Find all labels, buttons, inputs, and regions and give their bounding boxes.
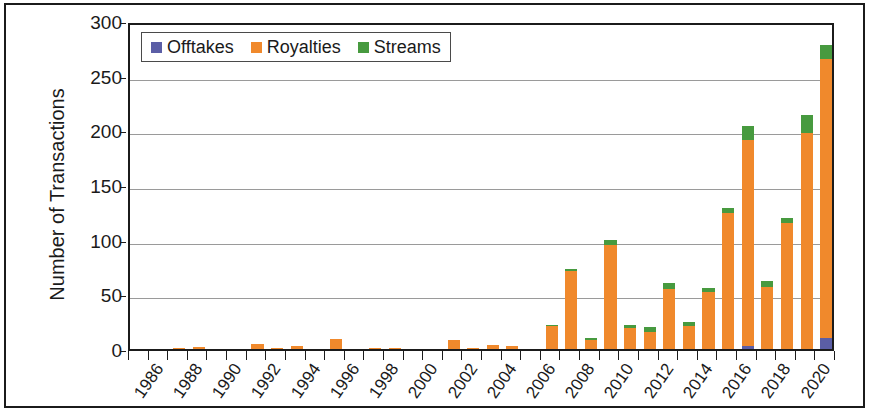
bar-column[interactable]: [702, 288, 714, 349]
bar-segment-royalties: [663, 289, 675, 349]
bar-segment-royalties: [193, 347, 205, 349]
x-tick-mark: [167, 351, 168, 360]
bar-segment-royalties: [702, 292, 714, 349]
x-tick-label: 1988: [169, 360, 207, 402]
bar-column[interactable]: [487, 345, 499, 349]
x-tick-label: 1992: [248, 360, 286, 402]
bar-column[interactable]: [801, 115, 813, 349]
bar-segment-royalties: [506, 346, 518, 349]
x-tick-mark: [559, 351, 560, 360]
bar-segment-royalties: [585, 340, 597, 349]
bar-column[interactable]: [389, 348, 401, 349]
y-tick-label: 150: [62, 176, 122, 198]
bar-segment-royalties: [369, 348, 381, 349]
bar-segment-streams: [801, 115, 813, 132]
x-tick-label: 1986: [130, 360, 168, 402]
plot-inner: [130, 25, 832, 349]
x-tick-label: 1998: [365, 360, 403, 402]
legend-label: Streams: [374, 37, 441, 58]
bar-column[interactable]: [193, 347, 205, 349]
bar-column[interactable]: [467, 348, 479, 349]
bar-column[interactable]: [742, 126, 754, 349]
x-tick-label: 1990: [209, 360, 247, 402]
bar-column[interactable]: [761, 281, 773, 349]
plot-area: [128, 23, 834, 351]
x-tick-mark: [599, 351, 600, 360]
bar-segment-streams: [742, 126, 754, 140]
bar-segment-streams: [820, 45, 832, 59]
bar-column[interactable]: [271, 348, 283, 349]
x-axis-tick-labels: 1986198819901992199419961998200020022004…: [128, 360, 834, 415]
x-tick-mark: [697, 351, 698, 360]
legend-item-streams[interactable]: Streams: [358, 37, 441, 58]
bar-segment-royalties: [565, 271, 577, 349]
bar-column[interactable]: [251, 344, 263, 349]
bar-column[interactable]: [663, 283, 675, 349]
bar-column[interactable]: [330, 339, 342, 349]
x-tick-mark: [363, 351, 364, 360]
y-tick-label: 300: [62, 12, 122, 34]
bar-segment-royalties: [624, 328, 636, 349]
bar-column[interactable]: [546, 325, 558, 349]
x-tick-mark: [481, 351, 482, 360]
gridline: [130, 134, 832, 135]
x-tick-label: 2004: [483, 360, 521, 402]
x-tick-mark: [775, 351, 776, 360]
x-tick-mark: [265, 351, 266, 360]
x-tick-mark: [206, 351, 207, 360]
bar-column[interactable]: [565, 269, 577, 349]
y-tick-mark: [120, 296, 126, 297]
x-tick-mark: [285, 351, 286, 360]
bar-segment-royalties: [546, 326, 558, 349]
bar-column[interactable]: [369, 348, 381, 349]
x-tick-mark: [736, 351, 737, 360]
legend-item-royalties[interactable]: Royalties: [251, 37, 341, 58]
bar-column[interactable]: [173, 348, 185, 349]
bar-column[interactable]: [781, 218, 793, 349]
gridline: [130, 189, 832, 190]
x-tick-label: 2014: [679, 360, 717, 402]
x-tick-mark: [834, 351, 835, 360]
x-tick-mark: [305, 351, 306, 360]
stacked-bar-chart: Number of Transactions 05010015020025030…: [0, 0, 871, 418]
x-tick-mark: [618, 351, 619, 360]
y-tick-mark: [120, 78, 126, 79]
legend-item-offtakes[interactable]: Offtakes: [151, 37, 234, 58]
x-tick-mark: [520, 351, 521, 360]
y-tick-mark: [120, 187, 126, 188]
bar-column[interactable]: [683, 322, 695, 349]
x-tick-mark: [795, 351, 796, 360]
bar-segment-royalties: [448, 340, 460, 349]
bar-segment-royalties: [487, 345, 499, 349]
bar-column[interactable]: [585, 338, 597, 349]
bar-segment-royalties: [291, 346, 303, 349]
x-tick-label: 2010: [601, 360, 639, 402]
bar-segment-royalties: [722, 213, 734, 349]
x-tick-label: 2016: [718, 360, 756, 402]
x-tick-mark: [344, 351, 345, 360]
x-tick-label: 2012: [640, 360, 678, 402]
bar-column[interactable]: [506, 346, 518, 349]
bar-column[interactable]: [722, 208, 734, 349]
y-tick-label: 50: [62, 285, 122, 307]
bar-column[interactable]: [448, 340, 460, 349]
bar-segment-royalties: [173, 348, 185, 349]
legend-label: Offtakes: [167, 37, 234, 58]
legend-label: Royalties: [267, 37, 341, 58]
x-tick-label: 1994: [287, 360, 325, 402]
x-tick-mark: [756, 351, 757, 360]
x-tick-mark: [501, 351, 502, 360]
bar-column[interactable]: [644, 327, 656, 349]
x-tick-mark: [187, 351, 188, 360]
bar-segment-royalties: [742, 140, 754, 346]
bar-segment-royalties: [604, 245, 616, 349]
x-tick-mark: [677, 351, 678, 360]
bar-segment-offtakes: [820, 338, 832, 349]
bar-segment-royalties: [271, 348, 283, 349]
bar-column[interactable]: [604, 240, 616, 349]
bar-column[interactable]: [624, 325, 636, 349]
bar-column[interactable]: [291, 346, 303, 349]
bar-segment-offtakes: [742, 346, 754, 349]
bar-segment-royalties: [801, 133, 813, 349]
bar-column[interactable]: [820, 45, 832, 349]
